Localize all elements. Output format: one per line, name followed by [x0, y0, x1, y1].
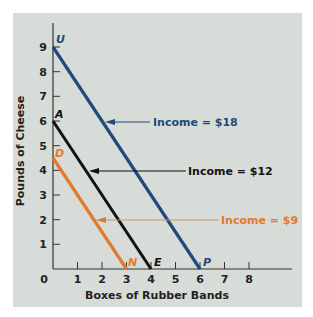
- svg-text:6: 6: [39, 115, 47, 128]
- arrow-left-icon: [96, 217, 106, 223]
- svg-text:1: 1: [74, 273, 82, 286]
- point-label-e: E: [154, 256, 162, 269]
- svg-text:4: 4: [147, 273, 155, 286]
- svg-text:4: 4: [39, 164, 47, 177]
- svg-text:0: 0: [40, 273, 48, 286]
- svg-text:Income = $9: Income = $9: [221, 214, 298, 227]
- svg-text:2: 2: [39, 214, 47, 227]
- point-label-d: D: [55, 147, 64, 160]
- svg-text:2: 2: [98, 273, 106, 286]
- arrow-left-icon: [105, 119, 115, 125]
- svg-text:3: 3: [39, 189, 47, 202]
- budget-line-income-18: [53, 47, 200, 269]
- svg-text:Income = $18: Income = $18: [153, 116, 238, 129]
- point-label-u: U: [56, 33, 65, 46]
- y-ticks: [53, 47, 60, 244]
- point-label-a: A: [54, 108, 64, 121]
- svg-text:7: 7: [39, 90, 47, 103]
- svg-text:8: 8: [39, 66, 47, 79]
- svg-text:9: 9: [39, 41, 47, 54]
- svg-text:5: 5: [39, 140, 47, 153]
- point-label-p: P: [203, 256, 211, 269]
- annotation-income-9: Income = $9: [96, 214, 298, 227]
- budget-line-income-12: [53, 121, 151, 269]
- arrow-left-icon: [89, 168, 99, 174]
- svg-text:6: 6: [196, 273, 204, 286]
- svg-text:1: 1: [39, 238, 47, 251]
- x-ticks: [78, 262, 250, 269]
- y-axis-title: Pounds of Cheese: [14, 96, 27, 207]
- annotation-income-12: Income = $12: [89, 165, 273, 178]
- svg-text:Income = $12: Income = $12: [188, 165, 273, 178]
- x-tick-labels: 0 1 2 3 4 5 6 7 8: [40, 273, 253, 286]
- budget-line-chart: 1 2 3 4 5 6 7 8 9 0 1 2 3 4 5 6 7 8 Boxe…: [0, 0, 313, 317]
- svg-text:5: 5: [172, 273, 180, 286]
- x-axis-title: Boxes of Rubber Bands: [85, 289, 229, 302]
- svg-text:3: 3: [123, 273, 131, 286]
- y-tick-labels: 1 2 3 4 5 6 7 8 9: [39, 41, 47, 251]
- annotation-income-18: Income = $18: [105, 116, 238, 129]
- point-label-n: N: [128, 256, 137, 269]
- svg-text:8: 8: [245, 273, 253, 286]
- svg-text:7: 7: [221, 273, 229, 286]
